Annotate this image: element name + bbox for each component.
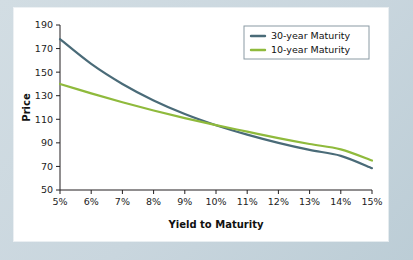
figure-background: 507090110130150170190 5%6%7%8%9%10%11%12… (0, 0, 413, 260)
chart-legend: 30-year Maturity10-year Maturity (244, 26, 369, 59)
legend-label: 30-year Maturity (271, 30, 351, 41)
y-tick-label: 50 (41, 184, 53, 195)
x-axis-ticks (60, 190, 372, 194)
x-tick-label: 9% (177, 196, 192, 207)
y-tick-label: 170 (35, 43, 53, 54)
y-tick-label: 110 (35, 114, 53, 125)
x-tick-label: 14% (330, 196, 351, 207)
x-tick-label: 11% (237, 196, 258, 207)
y-tick-label: 70 (41, 161, 53, 172)
y-tick-label: 130 (35, 90, 53, 101)
y-axis-tick-labels: 507090110130150170190 (35, 19, 53, 195)
x-axis-title: Yield to Maturity (168, 219, 264, 230)
x-tick-label: 15% (361, 196, 382, 207)
y-axis-title: Price (21, 93, 32, 122)
x-tick-label: 6% (84, 196, 99, 207)
x-tick-label: 12% (268, 196, 289, 207)
y-tick-label: 190 (35, 19, 53, 30)
x-axis-tick-labels: 5%6%7%8%9%10%11%12%13%14%15% (52, 196, 382, 207)
legend-label: 10-year Maturity (271, 44, 351, 55)
x-tick-label: 7% (115, 196, 130, 207)
series-line (60, 84, 372, 161)
x-tick-label: 13% (299, 196, 320, 207)
y-axis-ticks (56, 25, 60, 190)
chart-panel: 507090110130150170190 5%6%7%8%9%10%11%12… (14, 8, 388, 241)
plot-area: 507090110130150170190 5%6%7%8%9%10%11%12… (14, 8, 388, 241)
y-tick-label: 150 (35, 67, 53, 78)
x-tick-label: 5% (52, 196, 67, 207)
x-tick-label: 8% (146, 196, 161, 207)
y-tick-label: 90 (41, 137, 53, 148)
x-tick-label: 10% (205, 196, 226, 207)
price-yield-line-chart: 507090110130150170190 5%6%7%8%9%10%11%12… (14, 8, 388, 241)
